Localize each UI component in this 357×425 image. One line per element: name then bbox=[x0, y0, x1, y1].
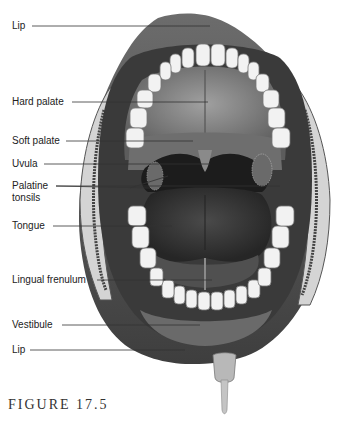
tongue bbox=[141, 188, 271, 262]
label-lingual-frenulum: Lingual frenulum bbox=[12, 274, 86, 286]
label-tongue: Tongue bbox=[12, 220, 45, 232]
right-tonsil bbox=[252, 154, 272, 186]
label-lip-lower: Lip bbox=[12, 344, 25, 356]
figure-caption: FIGURE 17.5 bbox=[8, 397, 109, 413]
label-vestibule: Vestibule bbox=[12, 319, 53, 331]
label-palatine-tonsils-line2: tonsils bbox=[12, 192, 40, 204]
label-palatine-tonsils-line1: Palatine bbox=[12, 180, 48, 192]
label-uvula: Uvula bbox=[12, 158, 38, 170]
label-lip-upper: Lip bbox=[12, 20, 25, 32]
tongue-depressor-tab bbox=[213, 353, 236, 383]
mouth-anatomy-figure: Lip Hard palate Soft palate Uvula Palati… bbox=[0, 0, 357, 425]
label-soft-palate: Soft palate bbox=[12, 135, 60, 147]
label-hard-palate: Hard palate bbox=[12, 96, 64, 108]
mouth-illustration bbox=[0, 0, 357, 425]
